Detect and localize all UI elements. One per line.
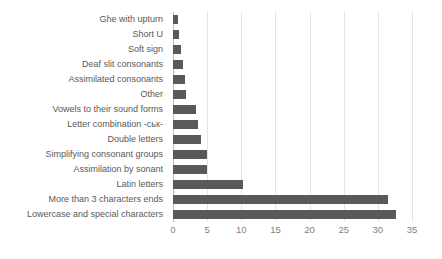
category-label-row: Assimilated consonants <box>0 72 168 87</box>
bar-row <box>173 177 412 192</box>
bar <box>173 15 178 24</box>
bar <box>173 135 201 144</box>
category-label: Soft sign <box>128 45 163 54</box>
category-label-row: Letter combination -ськ- <box>0 117 168 132</box>
category-label-row: Deaf slit consonants <box>0 57 168 72</box>
bar <box>173 120 198 129</box>
bar <box>173 165 207 174</box>
bar <box>173 150 207 159</box>
bar <box>173 75 185 84</box>
category-label: Simplifying consonant groups <box>45 150 163 159</box>
gridline <box>412 12 413 222</box>
category-axis-labels: Ghe with upturn Short U Soft sign Deaf s… <box>0 12 168 222</box>
bar-row <box>173 207 412 222</box>
bar-row <box>173 72 412 87</box>
bar <box>173 105 196 114</box>
axis-tick-label: 15 <box>270 225 281 235</box>
category-label: Double letters <box>107 135 163 144</box>
bar <box>173 45 181 54</box>
category-label: Assimilated consonants <box>68 75 163 84</box>
category-label-row: Ghe with upturn <box>0 12 168 27</box>
category-label: Short U <box>132 30 163 39</box>
bar-row <box>173 117 412 132</box>
axis-tick-label: 10 <box>236 225 247 235</box>
bar <box>173 30 179 39</box>
bar <box>173 210 396 219</box>
category-label-row: Lowercase and special characters <box>0 207 168 222</box>
category-label: More than 3 characters ends <box>48 195 163 204</box>
bar-row <box>173 57 412 72</box>
category-label-row: Short U <box>0 27 168 42</box>
bar <box>173 60 183 69</box>
category-label-row: Vowels to their sound forms <box>0 102 168 117</box>
category-label: Lowercase and special characters <box>27 210 163 219</box>
category-label-row: Double letters <box>0 132 168 147</box>
bar <box>173 195 388 204</box>
category-label: Other <box>140 90 163 99</box>
category-label: Letter combination -ськ- <box>67 120 163 129</box>
plot-area <box>173 12 412 222</box>
category-label-row: More than 3 characters ends <box>0 192 168 207</box>
bar-row <box>173 147 412 162</box>
value-axis-ticks: 05101520253035 <box>173 225 412 241</box>
category-label-row: Latin letters <box>0 177 168 192</box>
axis-tick-label: 5 <box>204 225 209 235</box>
axis-tick-label: 30 <box>373 225 384 235</box>
category-label-row: Soft sign <box>0 42 168 57</box>
bar-row <box>173 87 412 102</box>
category-label-row: Assimilation by sonant <box>0 162 168 177</box>
axis-tick-label: 25 <box>338 225 349 235</box>
category-label: Deaf slit consonants <box>82 60 163 69</box>
axis-tick-label: 0 <box>170 225 175 235</box>
bar-series <box>173 12 412 222</box>
category-label: Assimilation by sonant <box>73 165 163 174</box>
bar <box>173 90 186 99</box>
bar-row <box>173 27 412 42</box>
category-label: Vowels to their sound forms <box>52 105 163 114</box>
category-label-row: Simplifying consonant groups <box>0 147 168 162</box>
bar-row <box>173 102 412 117</box>
category-label: Ghe with upturn <box>99 15 163 24</box>
bar-row <box>173 42 412 57</box>
bar-chart: Ghe with upturn Short U Soft sign Deaf s… <box>0 0 442 259</box>
bar-row <box>173 132 412 147</box>
bar <box>173 180 243 189</box>
category-label: Latin letters <box>116 180 163 189</box>
bar-row <box>173 162 412 177</box>
bar-row <box>173 192 412 207</box>
bar-row <box>173 12 412 27</box>
axis-tick-label: 20 <box>304 225 315 235</box>
category-label-row: Other <box>0 87 168 102</box>
axis-tick-label: 35 <box>407 225 418 235</box>
